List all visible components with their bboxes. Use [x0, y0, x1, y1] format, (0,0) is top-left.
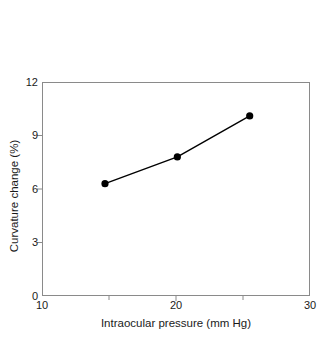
- x-axis-title: Intraocular pressure (mm Hg): [42, 317, 310, 329]
- x-axis-tick-label: 10: [22, 300, 62, 311]
- x-axis-tick-label: 30: [290, 300, 330, 311]
- chart-figure: 036912 102030 Intraocular pressure (mm H…: [0, 0, 332, 341]
- y-axis-title-wrapper: Curvature change (%): [7, 89, 21, 303]
- y-axis-title: Curvature change (%): [7, 89, 21, 303]
- x-axis-tick-labels: 102030: [0, 0, 332, 341]
- x-axis-tick-label: 20: [156, 300, 196, 311]
